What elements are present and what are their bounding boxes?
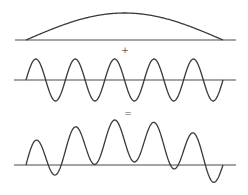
diagram-canvas <box>0 0 248 195</box>
envelope-panel <box>15 13 236 40</box>
carrier-panel <box>14 59 236 101</box>
plus-operator: + <box>121 46 129 55</box>
sum-wave <box>26 120 223 182</box>
equals-operator: = <box>124 109 132 118</box>
envelope-wave <box>26 13 223 40</box>
superposition-diagram: + = <box>0 0 248 195</box>
sum-panel <box>14 120 236 182</box>
